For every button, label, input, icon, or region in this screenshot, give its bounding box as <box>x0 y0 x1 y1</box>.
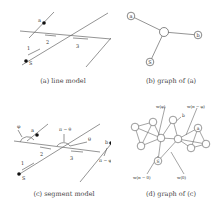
label-b: b <box>182 113 185 118</box>
label-theta: θ <box>88 136 91 142</box>
panel-b-graph: a b S <box>111 0 222 104</box>
label-w-pi-minus-phi: w(π − φ) <box>187 104 205 109</box>
label-seg2: 2 <box>46 39 49 45</box>
label-a: a <box>31 127 34 133</box>
node <box>174 135 182 143</box>
node-label-a: a <box>197 126 200 131</box>
node-label-b: b <box>196 32 199 38</box>
label-S: S <box>29 60 33 66</box>
label-b: b <box>105 139 108 145</box>
label-seg1: 1 <box>21 160 24 166</box>
node-label-S: S <box>148 59 152 65</box>
label-w-phi: w(φ) <box>156 104 166 109</box>
point-S <box>17 172 21 176</box>
label-S: S <box>22 175 26 181</box>
node-center <box>160 28 169 37</box>
node-label-a: a <box>130 13 133 19</box>
panel-a-line-model: a S 1 2 3 <box>0 0 111 104</box>
node-label-S: S <box>156 159 159 164</box>
label-a: a <box>38 17 41 23</box>
node <box>131 123 139 131</box>
label-pi-minus-theta: π − θ <box>59 127 72 132</box>
label-seg3: 3 <box>70 155 73 161</box>
node <box>137 142 145 150</box>
label-seg3: 3 <box>76 43 79 49</box>
node <box>187 144 195 152</box>
point-a <box>35 133 39 137</box>
label-pi-minus-phi: π − φ <box>99 158 111 163</box>
point-a <box>42 21 46 25</box>
node <box>202 140 210 148</box>
caption-b: (b) graph of (a) <box>136 77 206 85</box>
label-seg1: 1 <box>27 45 30 51</box>
caption-a: (a) line model <box>28 77 98 85</box>
caption-d: (d) graph of (c) <box>136 190 206 198</box>
label-w-pi-minus-theta: w(π − θ) <box>133 175 151 180</box>
point-S <box>24 59 28 63</box>
label-phi: φ <box>17 123 21 130</box>
label-w-theta: w(θ) <box>177 175 186 180</box>
caption-c: (c) segment model <box>24 190 104 198</box>
node-b <box>169 116 177 124</box>
node <box>149 118 157 126</box>
label-seg2: 2 <box>40 151 43 157</box>
node <box>157 134 165 142</box>
